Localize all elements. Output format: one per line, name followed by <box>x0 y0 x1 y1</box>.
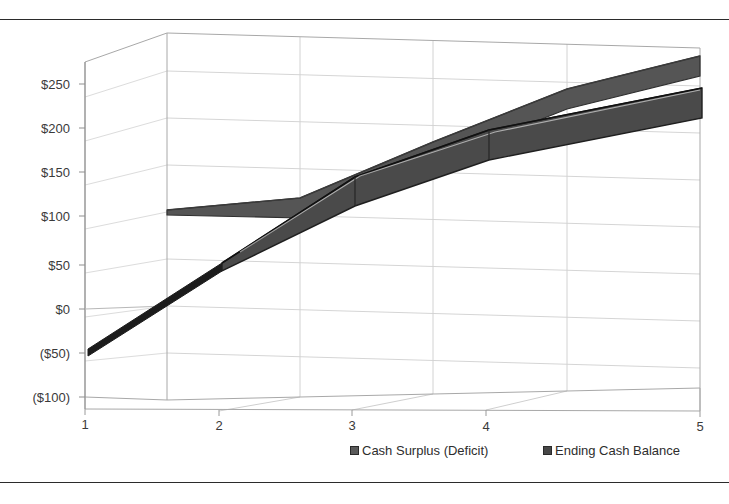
y-tick-label-neg50: ($50) <box>0 346 70 361</box>
legend-swatch-icon-ending-cash-balance <box>543 446 552 455</box>
y-axis <box>79 62 85 409</box>
legend-item-ending-cash-balance[interactable]: Ending Cash Balance <box>543 444 680 457</box>
x-tick-label-2: 2 <box>199 418 239 433</box>
y-tick-label-250: $250 <box>0 77 70 92</box>
legend-swatch-icon-cash-surplus-deficit <box>350 446 359 455</box>
y-tick-label-200: $200 <box>0 121 70 136</box>
legend-label-cash-surplus-deficit: Cash Surplus (Deficit) <box>362 444 488 457</box>
legend-label-ending-cash-balance: Ending Cash Balance <box>555 444 680 457</box>
chart-container: $250 $200 $150 $100 $50 $0 ($50) ($100) … <box>0 0 729 504</box>
y-tick-label-neg100: ($100) <box>0 390 70 405</box>
y-tick-label-150: $150 <box>0 165 70 180</box>
x-tick-label-5: 5 <box>680 419 720 434</box>
x-tick-label-4: 4 <box>466 419 506 434</box>
chart-legend: Cash Surplus (Deficit) Ending Cash Balan… <box>0 444 729 466</box>
x-tick-label-1: 1 <box>65 417 105 432</box>
y-tick-label-100: $100 <box>0 209 70 224</box>
legend-item-cash-surplus-deficit[interactable]: Cash Surplus (Deficit) <box>350 444 488 457</box>
y-tick-label-50: $50 <box>0 258 70 273</box>
x-tick-label-3: 3 <box>332 418 372 433</box>
y-tick-label-0: $0 <box>0 302 70 317</box>
